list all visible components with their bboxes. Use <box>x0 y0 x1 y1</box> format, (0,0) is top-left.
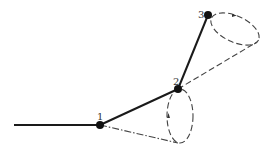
joint-3-label: 3 <box>198 9 204 20</box>
cone-joint-2 <box>178 6 264 89</box>
joint-3 <box>204 11 212 19</box>
joint-1 <box>96 121 104 129</box>
joint-2-label: 2 <box>173 76 179 87</box>
cone-joint-1 <box>100 89 193 143</box>
rotation-arrow-icon <box>232 14 237 17</box>
link-1-2 <box>100 89 178 125</box>
kinematic-chain-diagram: 1 2 3 <box>0 0 277 149</box>
joint-1-label: 1 <box>97 111 103 122</box>
link-2-3 <box>178 15 208 89</box>
